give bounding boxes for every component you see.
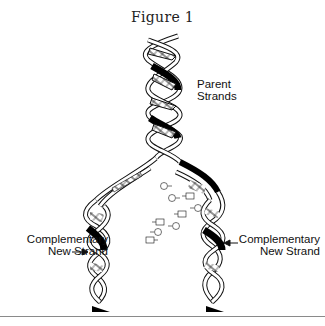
- right-daughter-helix: [176, 162, 224, 312]
- parent-strands-label: Parent Strands: [197, 78, 237, 102]
- parent-label-line2: Strands: [197, 90, 237, 102]
- left-new-strand-label: Complementary New Strand: [12, 233, 108, 257]
- parent-helix: [145, 36, 180, 162]
- right-new-strand-label: Complementary New Strand: [232, 233, 320, 257]
- dna-replication-diagram: [0, 0, 325, 326]
- right-label-line1: Complementary: [232, 233, 320, 245]
- right-label-line2: New Strand: [232, 245, 320, 257]
- left-label-line1: Complementary: [12, 233, 108, 245]
- free-nucleotides: [146, 183, 202, 244]
- parent-label-line1: Parent: [197, 78, 237, 90]
- left-label-line2: New Strand: [12, 245, 108, 257]
- bottom-rule: [0, 316, 325, 317]
